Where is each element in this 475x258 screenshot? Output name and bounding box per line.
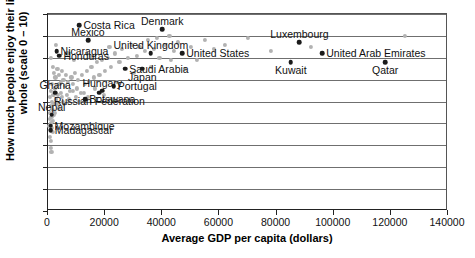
x-axis-tick [47, 210, 48, 215]
data-point [117, 60, 121, 64]
data-point-label: Madagascar [55, 125, 113, 136]
data-point-label: Portugal [118, 81, 157, 92]
scatter-chart-figure: How much people enjoy their life as a wh… [0, 0, 475, 258]
data-point-label: Denmark [141, 16, 184, 27]
data-point-label: Kuwait [275, 65, 307, 76]
data-point-labelled [160, 27, 165, 32]
data-point-label: Nepal [38, 101, 65, 112]
data-point [109, 64, 113, 68]
y-axis-title-wrap: How much people enjoy their life as a wh… [0, 0, 40, 210]
y-axis-tick [43, 167, 48, 168]
data-point [113, 51, 117, 55]
x-axis-tick-label: 140000 [429, 216, 464, 228]
x-axis-tick [447, 210, 448, 215]
y-axis-tick [43, 145, 48, 146]
data-point [76, 78, 80, 82]
data-point-labelled [49, 112, 54, 117]
y-axis-tick [43, 14, 48, 15]
data-point-label: United Kingdom [113, 40, 188, 51]
data-point-label: Luxembourg [270, 29, 328, 40]
y-axis-title: How much people enjoy their life as a wh… [4, 0, 30, 163]
data-point [103, 69, 107, 73]
data-point [269, 49, 273, 53]
x-axis-tick [333, 210, 334, 215]
data-point [60, 69, 64, 73]
y-axis-tick [43, 36, 48, 37]
data-point-label: Qatar [372, 65, 398, 76]
data-point [49, 150, 53, 154]
data-point-labelled [86, 38, 91, 43]
x-axis-tick [161, 210, 162, 215]
data-point [246, 36, 250, 40]
data-point [50, 64, 54, 68]
data-point-label: United Arab Emirates [326, 48, 425, 59]
data-point [403, 34, 407, 38]
figure-caption [6, 250, 336, 258]
data-point [126, 56, 130, 60]
data-point [73, 71, 77, 75]
x-axis-tick-label: 0 [44, 216, 50, 228]
data-point [203, 38, 207, 42]
data-point [49, 139, 53, 143]
x-axis-tick [104, 210, 105, 215]
x-axis-tick-label: 120000 [372, 216, 407, 228]
data-point-labelled [149, 51, 154, 56]
data-point-labelled [123, 66, 128, 71]
data-point-labelled [57, 53, 62, 58]
x-axis-tick [218, 210, 219, 215]
x-axis-tick [390, 210, 391, 215]
gridline-horizontal [48, 14, 446, 15]
data-point-label: Ghana [39, 79, 71, 90]
data-point-label: United States [186, 48, 249, 59]
data-point-label: Botswana [89, 94, 135, 105]
data-point-labelled [49, 128, 54, 133]
data-point [64, 73, 68, 77]
data-point-labelled [83, 97, 88, 102]
y-axis-tick [43, 189, 48, 190]
data-point-label: Honduras [63, 50, 109, 61]
data-point-labelled [180, 51, 185, 56]
data-point [167, 34, 171, 38]
y-axis-tick [43, 58, 48, 59]
data-point [54, 43, 58, 47]
data-point-labelled [297, 40, 302, 45]
x-axis-tick-label: 80000 [261, 216, 290, 228]
data-point [85, 69, 89, 73]
plot-area: Costa RicaDenmarkMexicoLuxembourgNicarag… [47, 13, 447, 210]
x-axis-tick-label: 40000 [147, 216, 176, 228]
x-axis: 020000400006000080000100000120000140000 [47, 210, 447, 232]
data-point-labelled [320, 51, 325, 56]
x-axis-title: Average GDP per capita (dollars) [47, 232, 447, 244]
data-point-label: Mexico [71, 27, 104, 38]
data-point [71, 82, 75, 86]
gridline-horizontal [48, 145, 446, 146]
data-point [309, 45, 313, 49]
x-axis-tick [276, 210, 277, 215]
x-axis-tick-label: 20000 [90, 216, 119, 228]
data-point [55, 67, 59, 71]
data-point-label: Hungary [82, 77, 122, 88]
data-point [74, 86, 78, 90]
gridline-horizontal [48, 189, 446, 190]
data-point [157, 56, 161, 60]
data-point [57, 73, 61, 77]
data-point [89, 64, 93, 68]
x-axis-tick-label: 60000 [204, 216, 233, 228]
data-point [49, 56, 53, 60]
x-axis-tick-label: 100000 [315, 216, 350, 228]
gridline-horizontal [48, 167, 446, 168]
